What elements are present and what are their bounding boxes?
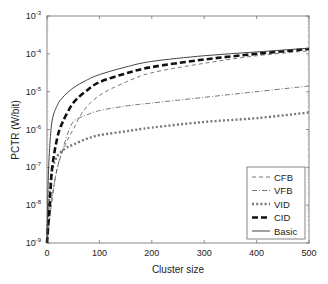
y-axis-label: PCTR (W/bit) xyxy=(10,100,21,159)
y-tick-label: 10-4 xyxy=(26,48,42,59)
x-tick-label: 100 xyxy=(92,248,107,258)
pctr-line-chart: 10-310-410-510-610-710-810-9 01002003004… xyxy=(0,0,328,284)
y-tick-label: 10-8 xyxy=(26,199,42,210)
legend-label-cid: CID xyxy=(274,212,291,223)
y-tick-label: 10-9 xyxy=(26,237,42,248)
x-tick-label: 400 xyxy=(249,248,264,258)
x-tick-label: 0 xyxy=(44,248,49,258)
legend-label-vfb: VFB xyxy=(274,185,292,196)
x-tick-label: 500 xyxy=(301,248,316,258)
y-tick-label: 10-3 xyxy=(26,10,42,21)
x-tick-label: 200 xyxy=(144,248,159,258)
y-tick-label: 10-6 xyxy=(26,124,42,135)
x-axis-label: Cluster size xyxy=(152,264,205,275)
legend: CFBVFBVIDCIDBasic xyxy=(247,167,305,239)
y-tick-label: 10-7 xyxy=(26,161,42,172)
x-tick-label: 300 xyxy=(197,248,212,258)
legend-label-cfb: CFB xyxy=(274,172,293,183)
legend-label-vid: VID xyxy=(274,199,290,210)
legend-label-basic: Basic xyxy=(274,226,297,237)
y-tick-label: 10-5 xyxy=(26,86,42,97)
